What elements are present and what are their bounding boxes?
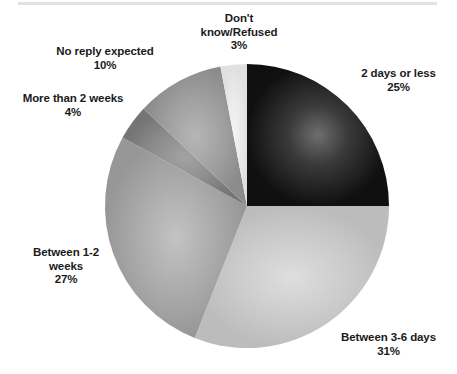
pie-label-dont-know-refused: Don't know/Refused 3% [183, 12, 295, 53]
pie-label-between-3-6-days-percent: 31% [322, 345, 455, 359]
pie-label-dont-know-refused-percent: 3% [183, 39, 295, 53]
pie-label-no-reply-expected-percent: 10% [30, 59, 180, 73]
pie-label-more-than-2-weeks: More than 2 weeks 4% [2, 92, 144, 119]
pie-label-no-reply-expected-line1: No reply expected [30, 45, 180, 59]
pie-label-dont-know-refused-line1: Don't [183, 12, 295, 26]
pie-label-between-3-6-days-line1: Between 3-6 days [322, 331, 455, 345]
pie-label-no-reply-expected: No reply expected 10% [30, 45, 180, 72]
pie-slice-group [105, 64, 389, 348]
pie-label-2-days-or-less-line1: 2 days or less [340, 67, 457, 81]
pie-label-between-3-6-days: Between 3-6 days 31% [322, 331, 455, 358]
pie-label-more-than-2-weeks-line1: More than 2 weeks [2, 92, 144, 106]
pie-chart-figure: Don't know/Refused 3% No reply expected … [0, 0, 457, 374]
pie-label-dont-know-refused-line2: know/Refused [183, 26, 295, 40]
pie-label-between-1-2-weeks-percent: 27% [6, 273, 126, 287]
pie-label-between-1-2-weeks-line2: weeks [6, 260, 126, 274]
pie-label-between-1-2-weeks-line1: Between 1-2 [6, 246, 126, 260]
pie-label-more-than-2-weeks-percent: 4% [2, 106, 144, 120]
pie-label-2-days-or-less: 2 days or less 25% [340, 67, 457, 94]
pie-label-2-days-or-less-percent: 25% [340, 81, 457, 95]
pie-label-between-1-2-weeks: Between 1-2 weeks 27% [6, 246, 126, 287]
